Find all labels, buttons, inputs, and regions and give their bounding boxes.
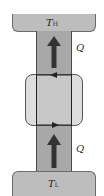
- loop-arrow-bottom-icon: [52, 122, 59, 128]
- heat-label-upper: Q: [76, 42, 84, 53]
- heat-label-lower: Q: [76, 143, 84, 154]
- arrows-layer: [0, 0, 104, 196]
- heat-arrow-lower-icon: [47, 134, 61, 168]
- loop-arrow-top-icon: [50, 72, 57, 78]
- heat-arrow-upper-icon: [47, 36, 61, 68]
